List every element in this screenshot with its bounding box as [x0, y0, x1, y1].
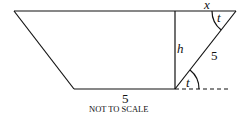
angle-arc-bottom: [190, 70, 199, 89]
label-t-top: t: [217, 10, 221, 25]
trapezoid-diagram: x t h 5 t 5 NOT TO SCALE: [0, 0, 244, 120]
label-h: h: [177, 41, 184, 56]
not-to-scale-note: NOT TO SCALE: [89, 104, 149, 114]
label-x: x: [203, 0, 210, 12]
left-slant-edge: [14, 11, 74, 89]
label-t-bottom: t: [186, 75, 190, 90]
right-slant-edge: [175, 11, 236, 89]
label-slant-5: 5: [211, 48, 218, 63]
